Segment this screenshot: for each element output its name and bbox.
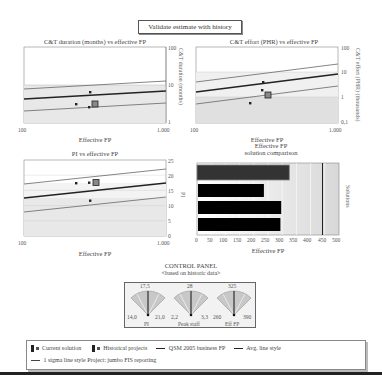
comparison-xtick: 100: [219, 237, 227, 243]
gauge-dial-icon: [215, 290, 253, 316]
gauge-min: 260: [213, 314, 221, 320]
comparison-xtick: 400: [303, 237, 311, 243]
comparison-ylabel: Solutions: [345, 185, 351, 215]
current-solution-flag-icon: [36, 347, 39, 350]
duration-chart-title: C&T duration (months) vs effective FP: [20, 38, 170, 45]
comparison-xtick: 250: [261, 237, 269, 243]
comparison-title-2: solution comparison: [196, 149, 346, 156]
gauge-min: 2,2: [171, 314, 178, 320]
pi-xtick-100: 100: [18, 240, 26, 246]
historical-projects-swatch-icon: [92, 345, 95, 352]
duration-ytick-10: 10: [168, 82, 174, 88]
comparison-xtick: 50: [207, 237, 213, 243]
comparison-title-1: Effective FP: [196, 142, 346, 149]
sigma-line-icon: [31, 360, 40, 361]
gauge-min: 14,0: [127, 314, 137, 320]
comparison-xtick: 200: [247, 237, 255, 243]
effort-xtick-100: 100: [190, 127, 198, 133]
duration-ytick-100: 100: [168, 45, 176, 51]
pi-ylabel: PI: [180, 192, 186, 212]
legend-current-solution: Current solution: [42, 345, 81, 351]
control-panel: 17,5 14,0 21,0 PI 28 2,2 3,3 Peak staff …: [124, 282, 256, 328]
legend-historical-projects: Historical projects: [103, 345, 147, 351]
gauge-max: 3,3: [201, 314, 208, 320]
legend-avg-line: Avg. line style: [246, 345, 281, 351]
duration-chart-plot: [24, 47, 166, 123]
pi-ytick-5: 5: [168, 218, 171, 224]
effort-chart-plot: [196, 47, 338, 123]
bottom-divider: [0, 372, 382, 375]
comparison-xtick: 450: [318, 237, 326, 243]
effort-xtick-1000: 1.000: [329, 127, 341, 133]
control-panel-subtitle: <based on historic data>: [140, 270, 242, 276]
effort-ylabel: C&T effort (PHR) (thousands): [355, 48, 361, 124]
gauge-max: 21,0: [155, 314, 165, 320]
gauge-pi: 17,5 14,0 21,0 PI: [127, 283, 169, 329]
pi-ytick-10: 10: [168, 203, 174, 209]
duration-xlabel: Effective FP: [20, 136, 170, 143]
gauge-value: 28: [187, 283, 193, 289]
effort-ytick-0-1: 0,1: [341, 119, 348, 125]
pi-xlabel: Effective FP: [20, 250, 170, 257]
duration-ylabel: C&T duration (months): [178, 48, 184, 124]
comparison-xtick: 300: [275, 237, 283, 243]
pi-chart-title: PI vs effective FP: [20, 150, 170, 157]
control-panel-title: CONTROL PANEL: [140, 262, 242, 269]
gauge-value: 17,5: [140, 283, 150, 289]
comparison-xlabel: Effective FP: [197, 247, 339, 254]
effort-chart-title: C&T effort (PHR) vs effective FP: [200, 38, 348, 45]
gauge-eff-fp: 325 260 390 Eff FP: [213, 283, 255, 329]
comparison-xtick: 150: [233, 237, 241, 243]
duration-xtick-100: 100: [18, 127, 26, 133]
comparison-xtick: 500: [332, 237, 340, 243]
gauge-value: 325: [228, 283, 236, 289]
pi-ytick-20: 20: [168, 173, 174, 179]
gauge-dial-icon: [172, 290, 210, 316]
legend-row-1: Current solution Historical projects QSM…: [31, 345, 281, 352]
comparison-xticks: 0 50 100 150 200 250 300 350 400 450 500: [195, 237, 345, 245]
effort-ytick-100: 100: [341, 45, 349, 51]
legend-qsm: QSM 2005 business FP: [169, 345, 225, 351]
pi-xtick-1000: 1.000: [157, 240, 169, 246]
gauge-label: Peak staff: [178, 321, 200, 327]
gauge-label: PI: [144, 321, 149, 327]
qsm-line-icon: [156, 348, 165, 350]
duration-ytick-1: 1: [168, 119, 171, 125]
pi-ytick-15: 15: [168, 188, 174, 194]
gauge-dial-icon: [129, 290, 167, 316]
effort-ytick-1: 1: [341, 94, 344, 100]
avg-line-icon: [234, 348, 243, 350]
legend-sigma-line: 1 sigma line style: [44, 357, 86, 363]
gauge-max: 390: [243, 314, 251, 320]
legend: Current solution Historical projects QSM…: [26, 340, 366, 370]
pi-ytick-0: 0: [168, 233, 171, 239]
current-solution-swatch-icon: [31, 345, 34, 352]
comparison-chart-plot: [197, 163, 339, 235]
comparison-xtick: 0: [195, 237, 198, 243]
effort-ytick-10: 10: [341, 69, 347, 75]
gauge-peak-staff: 28 2,2 3,3 Peak staff: [170, 283, 212, 329]
gauge-label: Eff FP: [225, 321, 239, 327]
historical-projects-flag-icon: [97, 347, 100, 350]
legend-row-2: 1 sigma line style Project: jumbo FIS re…: [31, 357, 156, 363]
comparison-xtick: 350: [289, 237, 297, 243]
duration-xtick-1000: 1.000: [157, 127, 169, 133]
pi-ytick-25: 25: [168, 158, 174, 164]
pi-chart-plot: [24, 160, 166, 236]
validate-estimate-button[interactable]: Validate estimate with history: [138, 20, 242, 34]
legend-project: Project: jumbo FIS reporting: [87, 357, 156, 363]
